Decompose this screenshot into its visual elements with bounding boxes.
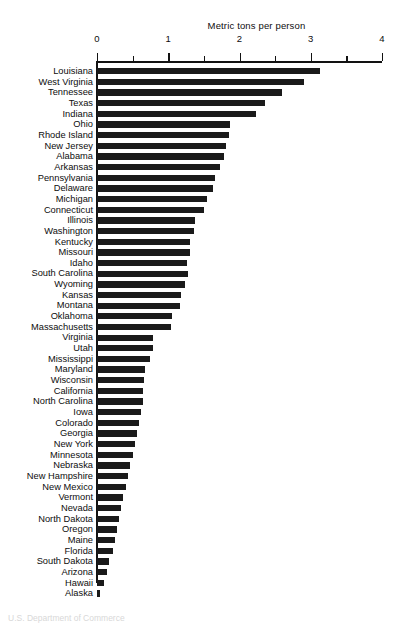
bar-category-label: Nevada — [61, 503, 93, 513]
x-minor-tick-3.5 — [346, 56, 347, 61]
bar-row: Georgia — [0, 428, 409, 439]
bar — [97, 441, 135, 447]
bar-category-label: Mississippi — [48, 354, 93, 364]
bar — [97, 569, 107, 575]
bar — [97, 420, 139, 426]
bar-category-label: Connecticut — [44, 205, 93, 215]
bar — [97, 388, 143, 394]
bar-category-label: New York — [54, 439, 93, 449]
bar-category-label: Alabama — [56, 151, 93, 161]
bar-category-label: South Dakota — [37, 556, 93, 566]
bar-row: California — [0, 386, 409, 397]
bar-category-label: Illinois — [67, 215, 93, 225]
bar-row: Maine — [0, 535, 409, 546]
bar — [97, 430, 137, 436]
bar-category-label: Texas — [69, 98, 93, 108]
x-tick-label-3: 3 — [308, 33, 313, 44]
bar — [97, 303, 180, 309]
x-minor-tick-1.5 — [204, 56, 205, 61]
bar-category-label: Rhode Island — [38, 130, 93, 140]
x-tick-label-0: 0 — [94, 33, 99, 44]
bar-row: Missouri — [0, 247, 409, 258]
bar-category-label: Colorado — [55, 418, 93, 428]
bar — [97, 249, 190, 255]
bar-category-label: Alaska — [65, 588, 93, 598]
bar-category-label: Georgia — [60, 428, 93, 438]
bar-category-label: Louisiana — [53, 66, 93, 76]
bar — [97, 175, 215, 181]
bar-category-label: Pennsylvania — [38, 173, 93, 183]
bar — [97, 111, 256, 117]
bar — [97, 452, 133, 458]
bar-row: Maryland — [0, 364, 409, 375]
bar-row: Arkansas — [0, 162, 409, 173]
bar-row: Texas — [0, 98, 409, 109]
x-axis-line — [97, 61, 382, 63]
bar-row: Hawaii — [0, 578, 409, 589]
bar-row: Indiana — [0, 109, 409, 120]
bar-row: West Virginia — [0, 77, 409, 88]
bar-row: Illinois — [0, 215, 409, 226]
bar — [97, 292, 181, 298]
bar — [97, 228, 194, 234]
bar — [97, 516, 119, 522]
bar — [97, 260, 187, 266]
bar-category-label: Delaware — [54, 183, 93, 193]
bar-category-label: Kansas — [62, 290, 93, 300]
axis-title: Metric tons per person — [0, 20, 409, 31]
bar-row: Virginia — [0, 332, 409, 343]
bar-row: Kansas — [0, 290, 409, 301]
bar — [97, 590, 100, 596]
bar-category-label: Michigan — [56, 194, 93, 204]
x-tick-label-1: 1 — [166, 33, 171, 44]
bar-row: Kentucky — [0, 237, 409, 248]
bar — [97, 324, 171, 330]
bar-row: Tennessee — [0, 87, 409, 98]
bar — [97, 217, 195, 223]
bar-row: Massachusetts — [0, 322, 409, 333]
bar-category-label: Hawaii — [65, 578, 93, 588]
bar — [97, 356, 150, 362]
bar-row: Oklahoma — [0, 311, 409, 322]
bar — [97, 409, 141, 415]
bar-row: Nevada — [0, 503, 409, 514]
bar-row: Ohio — [0, 119, 409, 130]
bar — [97, 271, 188, 277]
bar-row: Colorado — [0, 418, 409, 429]
bar-row: New Mexico — [0, 482, 409, 493]
bar-category-label: Wyoming — [54, 279, 93, 289]
bar-row: South Dakota — [0, 556, 409, 567]
bar-category-label: Washington — [44, 226, 93, 236]
bar — [97, 100, 265, 106]
bar-category-label: Maine — [68, 535, 93, 545]
bar-row: Utah — [0, 343, 409, 354]
bar — [97, 313, 172, 319]
bar-category-label: Minnesota — [50, 450, 93, 460]
bar-category-label: Idaho — [70, 258, 93, 268]
bar-row: Arizona — [0, 567, 409, 578]
bar-category-label: Nebraska — [53, 460, 93, 470]
x-major-tick-4 — [382, 53, 383, 61]
bar-category-label: Massachusetts — [31, 322, 93, 332]
bar — [97, 207, 204, 213]
x-major-tick-0 — [97, 53, 98, 61]
bar-row: Michigan — [0, 194, 409, 205]
bar-category-label: Arizona — [61, 567, 93, 577]
bar — [97, 537, 115, 543]
bar — [97, 132, 229, 138]
bar-row: Vermont — [0, 492, 409, 503]
bar — [97, 89, 282, 95]
bar — [97, 79, 304, 85]
bar-row: Minnesota — [0, 450, 409, 461]
footer-caption: U.S. Department of Commerce — [8, 613, 125, 623]
bar — [97, 121, 230, 127]
bar-category-label: Montana — [57, 300, 93, 310]
bar — [97, 548, 113, 554]
bar — [97, 153, 224, 159]
bar-row: Rhode Island — [0, 130, 409, 141]
bar-row: Idaho — [0, 258, 409, 269]
bar-category-label: Tennessee — [48, 87, 93, 97]
bar-category-label: Florida — [65, 546, 93, 556]
bar — [97, 281, 185, 287]
bar-row: Iowa — [0, 407, 409, 418]
